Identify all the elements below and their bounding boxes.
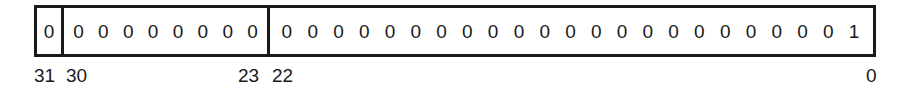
mantissa-bit: 0 — [720, 22, 731, 41]
mantissa-bit: 0 — [823, 22, 834, 41]
mantissa-bit: 1 — [849, 22, 860, 41]
sign-field: 0 — [37, 8, 64, 54]
mantissa-bit: 0 — [462, 22, 473, 41]
exponent-field: 00000000 — [64, 8, 270, 54]
exponent-bit: 0 — [222, 22, 233, 41]
mantissa-bit: 0 — [307, 22, 318, 41]
bit-field-register: 0 00000000 00000000000000000000001 — [34, 5, 876, 57]
exponent-bit: 0 — [247, 22, 258, 41]
mantissa-bit: 0 — [591, 22, 602, 41]
mantissa-bit: 0 — [694, 22, 705, 41]
mantissa-bit: 0 — [333, 22, 344, 41]
bit-label-30: 30 — [66, 66, 87, 85]
mantissa-bit: 0 — [539, 22, 550, 41]
mantissa-bit: 0 — [359, 22, 370, 41]
mantissa-bit: 0 — [771, 22, 782, 41]
mantissa-bit: 0 — [565, 22, 576, 41]
mantissa-bit: 0 — [797, 22, 808, 41]
exponent-bit: 0 — [173, 22, 184, 41]
sign-bit: 0 — [44, 22, 55, 41]
bit-label-31: 31 — [34, 66, 55, 85]
exponent-bit: 0 — [198, 22, 209, 41]
exponent-bit: 0 — [148, 22, 159, 41]
mantissa-bit: 0 — [411, 22, 422, 41]
bit-label-22: 22 — [272, 66, 293, 85]
bit-label-0: 0 — [866, 66, 877, 85]
exponent-bit: 0 — [98, 22, 109, 41]
mantissa-bit: 0 — [643, 22, 654, 41]
exponent-bit: 0 — [123, 22, 134, 41]
mantissa-bit: 0 — [617, 22, 628, 41]
mantissa-bit: 0 — [488, 22, 499, 41]
mantissa-bit: 0 — [746, 22, 757, 41]
bit-label-23: 23 — [238, 66, 259, 85]
exponent-bit: 0 — [73, 22, 84, 41]
mantissa-field: 00000000000000000000001 — [270, 8, 873, 54]
mantissa-bit: 0 — [385, 22, 396, 41]
mantissa-bit: 0 — [436, 22, 447, 41]
mantissa-bit: 0 — [668, 22, 679, 41]
mantissa-bit: 0 — [514, 22, 525, 41]
mantissa-bit: 0 — [282, 22, 293, 41]
